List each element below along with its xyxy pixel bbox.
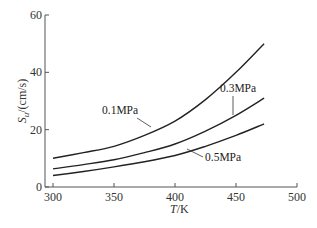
- y-tick-label: 0: [36, 180, 42, 194]
- y-axis-title: Su/(cm/s): [15, 79, 31, 124]
- curve-0.1mpa: [53, 44, 264, 159]
- x-tick-label: 500: [288, 190, 306, 204]
- label-0.1mpa: 0.1MPa: [102, 104, 138, 116]
- y-tick-label: 40: [30, 65, 42, 79]
- leader-0.1mpa: [137, 118, 151, 127]
- x-axis-title: T/K: [170, 202, 189, 216]
- label-0.5mpa: 0.5MPa: [205, 151, 241, 163]
- axes: 0204060300350400450500: [30, 8, 306, 204]
- y-tick-label: 20: [30, 123, 42, 137]
- x-tick-label: 450: [227, 190, 245, 204]
- y-tick-label: 60: [30, 8, 42, 22]
- line-chart: 0204060300350400450500 0.1MPa 0.3MPa 0.5…: [0, 0, 317, 228]
- x-tick-label: 350: [105, 190, 123, 204]
- label-0.3mpa: 0.3MPa: [220, 82, 256, 94]
- curve-0.5mpa: [53, 124, 264, 176]
- x-tick-label: 300: [44, 190, 62, 204]
